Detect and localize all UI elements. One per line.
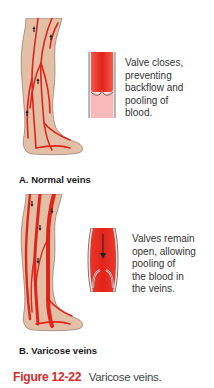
- panel-label-varicose-veins: B. Varicose veins: [19, 345, 97, 356]
- figure-number: Figure 12-22: [13, 370, 81, 384]
- panel-normal-veins: Valve closes, preventing backflow and po…: [0, 0, 214, 185]
- varicose-veins-description: Valves remain open, allowing pooling of …: [132, 233, 214, 296]
- open-valve-vessel-icon: [86, 228, 120, 292]
- normal-veins-description: Valve closes, preventing backflow and po…: [125, 57, 213, 120]
- varicose-leg-illustration: [18, 194, 84, 339]
- closed-valve-vessel-icon: [86, 52, 118, 118]
- normal-leg-illustration: [18, 18, 84, 163]
- panel-label-normal-veins: A. Normal veins: [19, 174, 91, 185]
- panel-varicose-veins: Valves remain open, allowing pooling of …: [0, 190, 214, 365]
- figure-title: Varicose veins.: [89, 371, 162, 383]
- figure-caption: Figure 12-22 Varicose veins.: [13, 367, 161, 385]
